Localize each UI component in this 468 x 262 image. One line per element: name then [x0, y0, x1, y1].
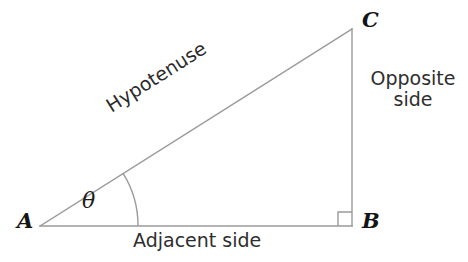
vertex-label-c: C — [362, 9, 379, 30]
angle-arc — [123, 173, 138, 226]
triangle-drawing — [0, 0, 468, 262]
triangle-diagram: A B C θ Hypotenuse Adjacent side Opposit… — [0, 0, 468, 262]
vertex-label-b: B — [362, 210, 380, 231]
right-angle-marker-icon — [338, 212, 352, 226]
opposite-side-label: Oppositeside — [361, 68, 465, 109]
adjacent-side-label: Adjacent side — [133, 230, 261, 251]
opposite-side-label-line2: side — [361, 89, 465, 110]
vertex-label-a: A — [17, 210, 33, 231]
angle-theta-label: θ — [82, 190, 95, 212]
opposite-side-label-line1: Opposite — [370, 67, 455, 89]
